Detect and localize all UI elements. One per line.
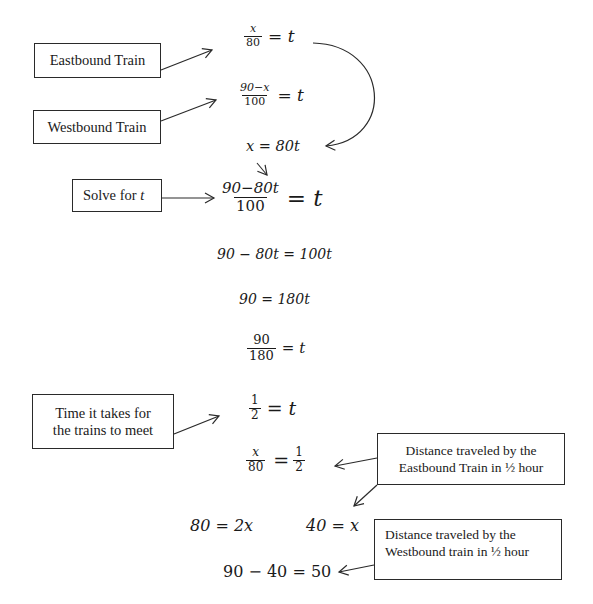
label-westbound-text: Westbound Train — [47, 119, 146, 136]
fraction: 90−80t 100 — [220, 180, 281, 216]
arrow-dist-east-2 — [354, 485, 377, 506]
arrow-dist-east-1 — [335, 458, 377, 466]
equation-x-equals-80t: x = 80t — [246, 138, 300, 154]
arrow-westbound — [161, 100, 216, 121]
arrow-eastbound — [161, 50, 212, 70]
label-dist-east-text: Distance traveled by the Eastbound Train… — [399, 442, 543, 476]
equation-90-minus-40: 90 − 40 = 50 — [223, 562, 331, 581]
label-westbound-train: Westbound Train — [33, 110, 161, 144]
equation-substituted: 90−80t 100 = t — [220, 180, 323, 216]
arrow-time — [174, 416, 219, 434]
label-time-text: Time it takes for the trains to meet — [53, 405, 153, 439]
fraction: 1 2 — [249, 394, 261, 423]
label-distance-westbound: Distance traveled by the Westbound train… — [374, 519, 562, 580]
fraction: 90 180 — [247, 333, 276, 364]
equation-step-2: 90 = 180t — [239, 291, 310, 307]
fraction: 90−x 100 — [238, 82, 271, 108]
label-dist-west-text: Distance traveled by the Westbound train… — [385, 526, 529, 560]
equation-eastbound-time: x 80 = t — [244, 23, 294, 49]
equation-t-equals-half: 1 2 = t — [249, 394, 296, 423]
arrow-substitute — [257, 163, 267, 175]
label-solve-for-t: Solve for t — [72, 179, 162, 212]
fraction: x 80 — [244, 23, 262, 49]
label-eastbound-train: Eastbound Train — [34, 43, 161, 78]
equation-step-1: 90 − 80t = 100t — [217, 246, 332, 262]
equation-westbound-time: 90−x 100 = t — [238, 82, 304, 108]
label-distance-eastbound: Distance traveled by the Eastbound Train… — [377, 433, 565, 485]
equation-80-equals-2x: 80 = 2x — [190, 516, 253, 535]
label-eastbound-text: Eastbound Train — [50, 52, 145, 69]
label-solve-text: Solve for t — [83, 187, 144, 204]
arrow-arc — [313, 43, 374, 146]
fraction: 1 2 — [293, 446, 305, 475]
fraction: x 80 — [246, 446, 265, 475]
label-time-to-meet: Time it takes for the trains to meet — [32, 394, 174, 449]
equation-40-equals-x: 40 = x — [306, 516, 359, 535]
arrow-dist-west — [339, 565, 374, 572]
equation-step-3: 90 180 = t — [247, 333, 305, 364]
equation-x-over-80-half: x 80 = 1 2 — [246, 446, 309, 475]
